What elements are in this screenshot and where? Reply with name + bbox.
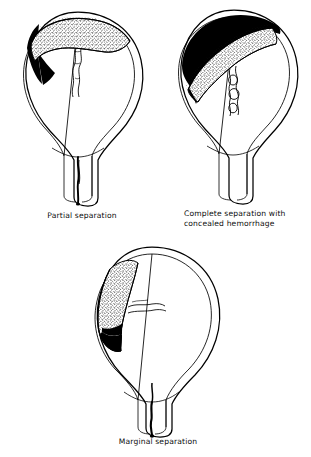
external-os-blood xyxy=(76,202,80,205)
figure-marginal-separation xyxy=(78,243,238,439)
caption-complete-separation: Complete separation with concealed hemor… xyxy=(184,209,310,229)
caption-partial-separation: Partial separation xyxy=(8,211,156,221)
figure-complete-separation xyxy=(168,6,308,206)
figure-partial-separation xyxy=(8,8,156,208)
vaginal-bleeding-track xyxy=(151,402,152,436)
caption-marginal-separation: Marginal separation xyxy=(78,437,238,447)
bleeding-track-upper xyxy=(152,383,153,402)
